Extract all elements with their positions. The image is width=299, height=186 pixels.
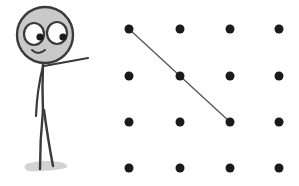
grid-dot (226, 25, 235, 34)
grid-dot (125, 72, 134, 81)
grid-dot (176, 118, 185, 127)
right-pupil (59, 33, 66, 40)
grid-dot (176, 72, 185, 81)
left-leg (40, 110, 43, 169)
grid-dot (226, 72, 235, 81)
grid-dot (275, 25, 284, 34)
grid-dot (275, 118, 284, 127)
grid-dot (125, 25, 134, 34)
left-pupil (36, 33, 43, 40)
grid-dot (125, 164, 134, 173)
right-leg (44, 110, 53, 166)
grid-dot (275, 164, 284, 173)
ground-shadow (24, 161, 67, 171)
grid-dot (125, 118, 134, 127)
diagram-canvas (0, 0, 299, 186)
grid-dot (176, 25, 185, 34)
grid-dot (226, 118, 235, 127)
grid-dot (176, 164, 185, 173)
stick-figure (17, 7, 88, 169)
grid-dot (275, 72, 284, 81)
right-eye (47, 22, 67, 44)
grid-dot (226, 164, 235, 173)
